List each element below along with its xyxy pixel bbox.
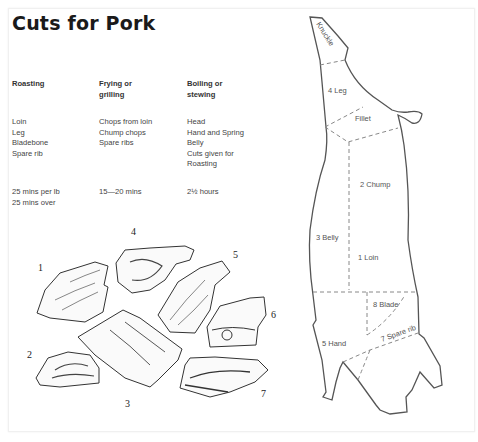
label-loin: 1 Loin	[358, 253, 378, 262]
label-chump: 2 Chump	[360, 180, 390, 189]
label-belly: 3 Belly	[316, 233, 339, 242]
label-hand: 5 Hand	[322, 339, 346, 348]
label-leg: 4 Leg	[328, 86, 347, 95]
carcass-outline	[309, 17, 442, 414]
label-spare-rib: 7 Spare rib	[380, 323, 418, 344]
pork-carcass-diagram: Knuckle 4 Leg Fillet 2 Chump 3 Belly 1 L…	[0, 0, 478, 442]
label-knuckle: Knuckle	[314, 20, 336, 47]
label-fillet: Fillet	[355, 114, 372, 123]
label-blade: 8 Blade	[373, 300, 398, 309]
